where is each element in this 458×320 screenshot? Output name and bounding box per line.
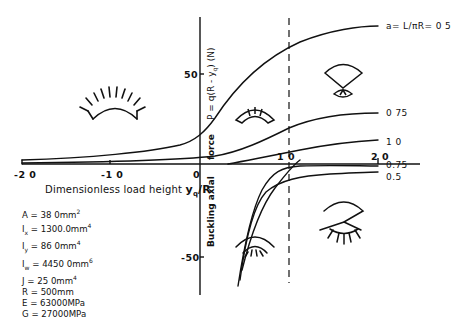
curve-label-05-lower: 0.5 [386,172,402,182]
param-Iw: Iw = 4450 0mm6 [22,256,93,273]
param-Ix: Ix = 1300.0mm4 [22,221,93,238]
param-R: R = 500mm [22,287,93,298]
y-axis-label-mid: force [206,134,216,160]
y-tick-m50: -50 [181,253,200,263]
x-tick-m10: -1 0 [101,170,123,180]
arch-with-outward-rays-icon [80,87,145,119]
x-tick-m20: -2 0 [14,170,36,180]
curve-075-lower [238,166,378,286]
arch-with-inner-fan-icon [236,237,274,257]
y-axis-label-upper: P = q(R - yq) (N) [206,48,218,120]
y-tick-50: 50 [184,70,198,80]
curve-label-a05: a= L/πR= 0 5 [386,21,451,31]
curve-10-upper [228,140,378,164]
param-A: A = 38 0mm2 [22,207,93,221]
curve-label-075-lower: 0.75 [386,160,408,170]
x-tick-0: 0 [193,170,200,180]
fan-sector-with-small-fan-icon [325,65,362,98]
curve-label-10-upper: 1 0 [386,137,402,147]
x-axis-label: Dimensionless load height yq/R [45,183,211,198]
curve-label-075-upper: 0 75 [386,108,408,118]
parameter-list: A = 38 0mm2 Ix = 1300.0mm4 Iy = 86 0mm4 … [22,207,93,320]
x-tick-10: 1 0 [277,152,295,162]
curve-05-lower [240,172,378,280]
param-E: E = 63000MPa [22,298,93,309]
y-axis-label-lower: Buckling axial [206,176,216,247]
param-Iy: Iy = 86 0mm4 [22,238,93,255]
fan-sector-with-rays-icon [320,202,363,244]
param-G: G = 27000MPa [22,309,93,320]
param-J: J = 25 0mm4 [22,273,93,287]
segmented-arch-icon [236,107,274,123]
